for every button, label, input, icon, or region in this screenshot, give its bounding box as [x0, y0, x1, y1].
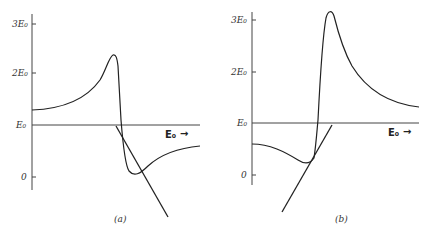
- panel-b-tangent-line: [282, 125, 332, 212]
- panel-a-caption: (a): [114, 214, 127, 224]
- panel-a-tangent-line: [116, 126, 168, 217]
- panel-a-label-e0: E₀: [15, 120, 27, 130]
- panel-a-label-2e0: 2E₀: [11, 68, 28, 78]
- panel-b-curve: [252, 12, 419, 163]
- panel-b-label-3e0: 3E₀: [231, 15, 247, 25]
- panel-b-x-axis-label: E₀: [388, 127, 399, 138]
- panel-b-caption: (b): [335, 214, 348, 224]
- figure: 3E₀ 2E₀ E₀ 0 E₀ → (a) 3E₀ 2E₀ E₀ 0 E₀ → …: [0, 0, 429, 234]
- panel-b-arrow-icon: →: [403, 126, 411, 137]
- panel-b-label-2e0: 2E₀: [230, 67, 247, 77]
- panel-a: 3E₀ 2E₀ E₀ 0 E₀ → (a): [11, 14, 200, 224]
- panel-b: 3E₀ 2E₀ E₀ 0 E₀ → (b): [230, 12, 419, 224]
- panel-b-label-e0: E₀: [236, 118, 248, 128]
- panel-a-label-0: 0: [21, 172, 27, 182]
- panel-a-x-axis-label: E₀: [165, 129, 176, 140]
- panel-a-curve: [32, 55, 200, 174]
- panel-a-arrow-icon: →: [180, 128, 188, 139]
- panel-b-label-0: 0: [241, 170, 247, 180]
- panel-a-label-3e0: 3E₀: [12, 19, 28, 29]
